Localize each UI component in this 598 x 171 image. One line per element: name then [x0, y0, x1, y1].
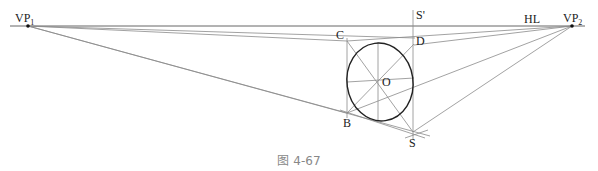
perspective-diagram: VP1 VP2 HL C D O B S S'	[0, 0, 598, 150]
vp1-to-d-line	[28, 26, 415, 38]
d-label: D	[416, 34, 425, 48]
figure-caption: 图 4-67	[0, 151, 598, 168]
o-label: O	[382, 75, 391, 89]
vp2-label: VP2	[563, 11, 582, 27]
s-label: S	[409, 136, 416, 150]
vp1-label: VP1	[15, 11, 34, 27]
c-label: C	[336, 28, 344, 42]
b-label: B	[343, 116, 351, 130]
hl-label: HL	[524, 12, 540, 26]
bottom-edge-b-s	[340, 110, 425, 138]
s-prime-label: S'	[416, 8, 425, 22]
